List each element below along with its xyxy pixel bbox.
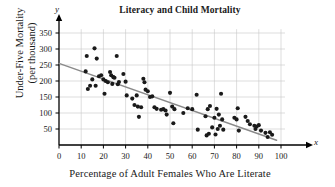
x-tick-label: 90 (250, 151, 268, 161)
x-tick-label: 30 (117, 151, 135, 161)
trend-line (59, 63, 277, 140)
x-tick-label: 70 (205, 151, 223, 161)
data-point (139, 105, 143, 109)
data-point (135, 93, 139, 97)
data-point (259, 129, 263, 133)
x-tick-label: 40 (139, 151, 157, 161)
data-point (90, 77, 94, 81)
data-point (110, 82, 114, 86)
data-point (257, 123, 261, 127)
y-tick-label: 50 (28, 124, 52, 134)
y-tick-label: 250 (28, 60, 52, 70)
data-point (207, 132, 211, 136)
data-point (146, 89, 150, 93)
data-point (218, 124, 222, 128)
data-point (155, 107, 159, 111)
data-point (117, 80, 121, 84)
x-tick-label: 20 (94, 151, 112, 161)
data-point (141, 77, 145, 81)
x-axis-label: Percentage of Adult Females Who Are Lite… (30, 168, 310, 179)
data-point (195, 93, 199, 97)
data-point (121, 72, 125, 76)
data-point (115, 54, 119, 58)
data-point (190, 107, 194, 111)
y-tick-label: 300 (28, 44, 52, 54)
data-point (248, 122, 252, 126)
data-point (237, 129, 241, 133)
x-tick-label: 50 (161, 151, 179, 161)
data-point (85, 54, 89, 58)
data-point (270, 133, 274, 137)
data-point (112, 76, 116, 80)
data-point (92, 46, 96, 50)
data-point (94, 84, 98, 88)
data-point (243, 115, 247, 119)
data-point (210, 125, 214, 129)
chart-title: Literacy and Child Mortality (95, 5, 265, 16)
data-point (219, 92, 223, 96)
data-point (220, 117, 224, 121)
data-point (208, 104, 212, 108)
data-point (236, 106, 240, 110)
data-point (221, 128, 225, 132)
data-point (235, 117, 239, 121)
data-point (212, 116, 216, 120)
data-point (263, 131, 267, 135)
y-tick-label: 350 (28, 28, 52, 38)
chart-figure: Literacy and Child Mortality y x Under-F… (0, 0, 335, 187)
gridlines (59, 29, 285, 145)
data-point (142, 80, 146, 84)
data-point (266, 135, 270, 139)
data-point (150, 94, 154, 98)
data-point (171, 121, 175, 125)
data-point (181, 111, 185, 115)
data-point (106, 80, 110, 84)
data-point (125, 93, 129, 97)
data-point (137, 115, 141, 119)
x-tick-label: 10 (72, 151, 90, 161)
data-point (99, 73, 103, 77)
x-tick-label: 100 (272, 151, 290, 161)
data-point (88, 84, 92, 88)
data-point (168, 91, 172, 95)
x-axis-symbol: x (314, 137, 318, 147)
x-tick-label: 80 (228, 151, 246, 161)
data-points (84, 46, 275, 139)
data-point (165, 113, 169, 117)
y-tick-label: 150 (28, 92, 52, 102)
data-point (84, 69, 88, 73)
data-point (203, 114, 207, 118)
data-point (217, 113, 221, 117)
data-point (186, 106, 190, 110)
data-point (124, 80, 128, 84)
data-point (215, 107, 219, 111)
data-point (196, 128, 200, 132)
data-point (102, 92, 106, 96)
x-tick-label: 0 (50, 151, 68, 161)
y-axis-label-line1: Under-Five Mortality (14, 8, 27, 98)
data-point (130, 97, 134, 101)
data-point (213, 132, 217, 136)
y-axis-symbol: y (55, 4, 59, 14)
data-point (172, 107, 176, 111)
data-point (95, 57, 99, 61)
y-tick-label: 100 (28, 108, 52, 118)
x-tick-label: 60 (183, 151, 201, 161)
data-point (164, 108, 168, 112)
axis-ticks (56, 33, 282, 149)
y-tick-label: 200 (28, 76, 52, 86)
